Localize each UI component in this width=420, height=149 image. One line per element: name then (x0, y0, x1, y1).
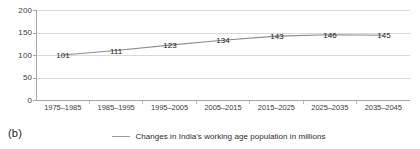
data-label-2005-2015: 134 (216, 37, 229, 45)
x-axis-tick-3: 2005–2015 (196, 103, 249, 117)
data-label-1975-1985: 101 (56, 52, 69, 60)
x-axis-tick-1: 1985–1995 (89, 103, 142, 117)
legend-line-swatch-icon (112, 136, 130, 137)
chart-canvas (0, 0, 420, 120)
x-axis-tick-6: 2035–2045 (357, 103, 410, 117)
chart-plot-area: 200 150 100 50 0 (0, 0, 420, 120)
figure-panel-b: 200 150 100 50 0 (0, 0, 420, 149)
x-axis-tick-5: 2025–2035 (303, 103, 356, 117)
data-label-1995-2005: 123 (163, 42, 176, 50)
data-label-2035-2045: 145 (377, 32, 390, 40)
x-axis-tick-labels: 1975–1985 1985–1995 1995–2005 2005–2015 … (36, 103, 410, 117)
chart-legend: Changes in India's working age populatio… (0, 128, 420, 144)
data-label-2025-2035: 146 (323, 32, 336, 40)
x-axis-tick-4: 2015–2025 (250, 103, 303, 117)
y-axis-ticks (33, 11, 36, 101)
data-label-2015-2025: 143 (270, 33, 283, 41)
x-axis-tick-2: 1995–2005 (143, 103, 196, 117)
data-label-1985-1995: 111 (110, 48, 122, 56)
legend-item-label: Changes in India's working age populatio… (135, 132, 325, 141)
legend-item-working-age-population: Changes in India's working age populatio… (112, 132, 325, 141)
x-axis-tick-0: 1975–1985 (36, 103, 89, 117)
